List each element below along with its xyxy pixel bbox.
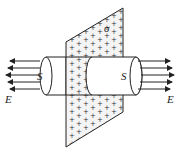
- svg-text:+: +: [83, 28, 89, 36]
- svg-text:+: +: [90, 96, 96, 104]
- diagram-canvas: ++++++++++++++++++++++++++++++++++++++++…: [0, 0, 179, 159]
- label-field-right: E: [166, 93, 174, 105]
- svg-text:+: +: [118, 144, 124, 152]
- svg-text:+: +: [69, 52, 75, 60]
- svg-text:+: +: [97, 44, 103, 52]
- svg-text:+: +: [90, 24, 96, 32]
- svg-text:+: +: [83, 140, 89, 148]
- label-surface-left: S: [37, 70, 43, 82]
- svg-text:+: +: [90, 104, 96, 112]
- svg-text:+: +: [69, 28, 75, 36]
- svg-text:+: +: [97, 116, 103, 124]
- svg-text:+: +: [69, 92, 75, 100]
- svg-text:+: +: [83, 36, 89, 44]
- svg-text:+: +: [97, 140, 103, 148]
- svg-text:+: +: [90, 40, 96, 48]
- svg-text:+: +: [111, 44, 117, 52]
- label-field-left: E: [4, 93, 12, 105]
- svg-text:+: +: [76, 80, 82, 88]
- svg-text:+: +: [69, 100, 75, 108]
- svg-text:+: +: [76, 136, 82, 144]
- svg-text:+: +: [104, 128, 110, 136]
- svg-text:+: +: [76, 112, 82, 120]
- svg-text:+: +: [97, 132, 103, 140]
- label-surface-right: S: [121, 70, 127, 82]
- svg-text:+: +: [69, 132, 75, 140]
- svg-text:+: +: [90, 48, 96, 56]
- cylinder-left: [40, 57, 66, 95]
- svg-text:+: +: [83, 92, 89, 100]
- svg-text:+: +: [83, 100, 89, 108]
- svg-text:+: +: [111, 28, 117, 36]
- svg-text:+: +: [111, 20, 117, 28]
- svg-text:+: +: [83, 20, 89, 28]
- svg-text:+: +: [83, 52, 89, 60]
- svg-text:+: +: [76, 128, 82, 136]
- svg-text:+: +: [104, 144, 110, 152]
- svg-text:+: +: [69, 84, 75, 92]
- svg-text:+: +: [111, 116, 117, 124]
- svg-text:+: +: [90, 32, 96, 40]
- svg-text:+: +: [83, 12, 89, 20]
- svg-text:+: +: [104, 112, 110, 120]
- svg-text:+: +: [111, 132, 117, 140]
- svg-text:+: +: [104, 136, 110, 144]
- svg-text:+: +: [90, 8, 96, 16]
- svg-text:+: +: [111, 124, 117, 132]
- svg-text:+: +: [83, 132, 89, 140]
- svg-text:+: +: [69, 20, 75, 28]
- svg-text:+: +: [83, 4, 89, 12]
- svg-text:+: +: [97, 100, 103, 108]
- svg-text:+: +: [111, 140, 117, 148]
- svg-text:+: +: [104, 104, 110, 112]
- svg-text:+: +: [76, 104, 82, 112]
- label-charge-density: σ: [104, 22, 110, 34]
- svg-text:+: +: [76, 32, 82, 40]
- svg-text:+: +: [97, 4, 103, 12]
- svg-text:+: +: [104, 120, 110, 128]
- svg-text:+: +: [83, 108, 89, 116]
- gauss-law-diagram: ++++++++++++++++++++++++++++++++++++++++…: [0, 0, 179, 159]
- svg-text:+: +: [90, 144, 96, 152]
- svg-text:+: +: [104, 40, 110, 48]
- svg-text:+: +: [104, 48, 110, 56]
- svg-text:+: +: [111, 36, 117, 44]
- svg-text:+: +: [97, 28, 103, 36]
- svg-text:+: +: [118, 112, 124, 120]
- svg-text:+: +: [69, 44, 75, 52]
- svg-text:+: +: [76, 120, 82, 128]
- svg-text:+: +: [83, 116, 89, 124]
- svg-text:+: +: [69, 60, 75, 68]
- left-field-arrows: [6, 61, 40, 89]
- svg-text:+: +: [69, 4, 75, 12]
- svg-text:+: +: [69, 68, 75, 76]
- svg-text:+: +: [76, 144, 82, 152]
- svg-text:+: +: [76, 64, 82, 72]
- svg-text:+: +: [97, 12, 103, 20]
- svg-text:+: +: [97, 36, 103, 44]
- svg-text:+: +: [76, 16, 82, 24]
- svg-text:+: +: [83, 44, 89, 52]
- svg-text:+: +: [76, 48, 82, 56]
- svg-text:+: +: [118, 136, 124, 144]
- svg-text:+: +: [76, 8, 82, 16]
- svg-text:+: +: [111, 4, 117, 12]
- svg-text:+: +: [104, 96, 110, 104]
- svg-text:+: +: [76, 40, 82, 48]
- svg-text:+: +: [118, 120, 124, 128]
- svg-text:+: +: [90, 136, 96, 144]
- svg-text:+: +: [69, 140, 75, 148]
- svg-text:+: +: [76, 24, 82, 32]
- svg-text:+: +: [90, 120, 96, 128]
- right-field-arrows: [138, 61, 174, 89]
- svg-text:+: +: [118, 128, 124, 136]
- svg-text:+: +: [104, 8, 110, 16]
- svg-text:+: +: [111, 108, 117, 116]
- svg-text:+: +: [69, 124, 75, 132]
- svg-text:+: +: [76, 96, 82, 104]
- svg-text:+: +: [111, 100, 117, 108]
- svg-text:+: +: [69, 108, 75, 116]
- svg-text:+: +: [76, 72, 82, 80]
- svg-text:+: +: [97, 108, 103, 116]
- svg-text:+: +: [69, 76, 75, 84]
